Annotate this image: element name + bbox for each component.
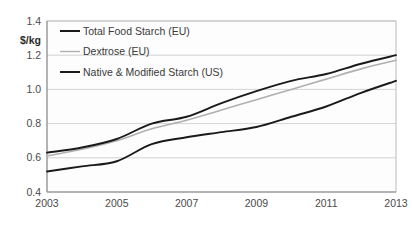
- y-tick-label: 1.0: [26, 83, 41, 95]
- chart-canvas: 1.41.21.00.80.60.4 200320052007200920112…: [0, 0, 412, 240]
- line-chart: 1.41.21.00.80.60.4 200320052007200920112…: [0, 0, 412, 240]
- y-tick-label: 1.4: [26, 15, 41, 27]
- x-tick-label: 2007: [175, 197, 199, 209]
- legend-label: Native & Modified Starch (US): [83, 66, 223, 78]
- x-tick-label: 2003: [35, 197, 59, 209]
- y-axis-unit-text: $/kg: [20, 34, 41, 46]
- legend-label: Dextrose (EU): [83, 45, 150, 57]
- x-tick-label: 2013: [384, 197, 408, 209]
- y-tick-label: 0.4: [26, 186, 41, 198]
- y-tick-label: 1.2: [26, 49, 41, 61]
- y-axis-unit-label: $/kg: [20, 34, 41, 46]
- y-tick-label: 0.8: [26, 117, 41, 129]
- x-tick-label: 2011: [315, 197, 338, 209]
- x-tick-label: 2009: [245, 197, 269, 209]
- x-tick-label: 2005: [105, 197, 129, 209]
- x-axis-tick-labels: 200320052007200920112013: [35, 197, 408, 209]
- legend-label: Total Food Starch (EU): [83, 25, 190, 37]
- y-tick-label: 0.6: [26, 151, 41, 163]
